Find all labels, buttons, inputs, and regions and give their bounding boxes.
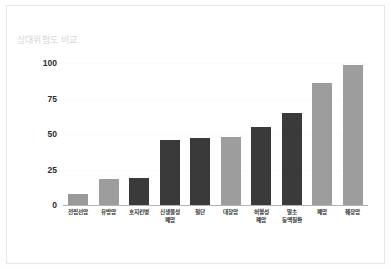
bar-group[interactable]: 말초 동맥질환 (277, 56, 308, 205)
bar-group[interactable]: 신생물성 폐암 (155, 56, 186, 205)
chart-title: 상대위험도 비교 (17, 33, 77, 46)
bar[interactable] (99, 179, 119, 205)
plot-area: 0255075100 전립선암유방암호지킨병신생물성 폐암절단대장암허혈성 폐암… (63, 56, 368, 205)
y-tick-label: 25 (48, 165, 57, 175)
x-axis-line (63, 205, 368, 206)
bar-group[interactable]: 대장암 (216, 56, 247, 205)
bar[interactable] (221, 137, 241, 205)
bar[interactable] (68, 194, 88, 205)
bar[interactable] (251, 127, 271, 205)
y-tick-label: 100 (43, 58, 57, 68)
bar[interactable] (190, 138, 210, 205)
bar-group[interactable]: 폐암 (307, 56, 338, 205)
bar[interactable] (312, 83, 332, 205)
bar-group[interactable]: 허혈성 폐암 (246, 56, 277, 205)
bar-group[interactable]: 췌장암 (338, 56, 369, 205)
bar-group[interactable]: 전립선암 (63, 56, 94, 205)
bar[interactable] (129, 178, 149, 205)
bar[interactable] (160, 140, 180, 205)
bar-group[interactable]: 호지킨병 (124, 56, 155, 205)
x-tick-label: 췌장암 (330, 209, 376, 217)
y-tick-label: 50 (48, 129, 57, 139)
bar[interactable] (343, 65, 363, 205)
bar-group[interactable]: 유방암 (94, 56, 125, 205)
chart-figure: 상대위험도 비교 0255075100 전립선암유방암호지킨병신생물성 폐암절단… (0, 0, 391, 269)
bars-layer: 전립선암유방암호지킨병신생물성 폐암절단대장암허혈성 폐암말초 동맥질환폐암췌장… (63, 56, 368, 205)
y-tick-label: 75 (48, 94, 57, 104)
bar[interactable] (282, 113, 302, 205)
bar-group[interactable]: 절단 (185, 56, 216, 205)
